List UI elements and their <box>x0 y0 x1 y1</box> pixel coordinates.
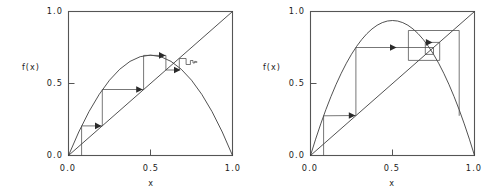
left-ytick-0: 0.0 <box>47 150 63 160</box>
left-yaxis-label: f(x) <box>22 63 40 72</box>
left-cobweb-arrowheads <box>95 52 181 129</box>
right-xtick-0: 0.0 <box>302 163 318 173</box>
right-xtick-1: 1.0 <box>466 163 482 173</box>
right-xaxis-label: x <box>389 179 395 188</box>
cobweb-panel-left: 1.0 0.5 0.0 f(x) 0.0 0.5 1.0 x <box>0 0 241 191</box>
left-ytick-1: 1.0 <box>47 6 63 16</box>
left-cobweb-path <box>82 55 198 155</box>
right-ytick-1: 1.0 <box>289 6 305 16</box>
right-xtick-05: 0.5 <box>384 163 400 173</box>
left-xtick-0: 0.0 <box>60 163 76 173</box>
right-identity-line <box>311 12 475 156</box>
right-plot-svg: 1.0 0.5 0.0 f(x) 0.0 0.5 1.0 x <box>241 0 483 191</box>
left-ytick-05: 0.5 <box>47 78 63 88</box>
right-ytick-05: 0.5 <box>289 78 305 88</box>
left-xaxis-label: x <box>148 179 154 188</box>
figure-root: 1.0 0.5 0.0 f(x) 0.0 0.5 1.0 x <box>0 0 483 191</box>
right-yaxis-label: f(x) <box>263 63 281 72</box>
left-plot-svg: 1.0 0.5 0.0 f(x) 0.0 0.5 1.0 x <box>0 0 241 191</box>
right-ytick-0: 0.0 <box>289 150 305 160</box>
right-logistic-curve <box>311 21 475 156</box>
left-xtick-1: 1.0 <box>225 163 241 173</box>
left-xtick-05: 0.5 <box>143 163 159 173</box>
cobweb-panel-right: 1.0 0.5 0.0 f(x) 0.0 0.5 1.0 x <box>241 0 482 191</box>
left-identity-line <box>69 12 233 156</box>
left-logistic-curve <box>69 55 233 155</box>
right-cobweb-arrowheads <box>349 39 433 119</box>
